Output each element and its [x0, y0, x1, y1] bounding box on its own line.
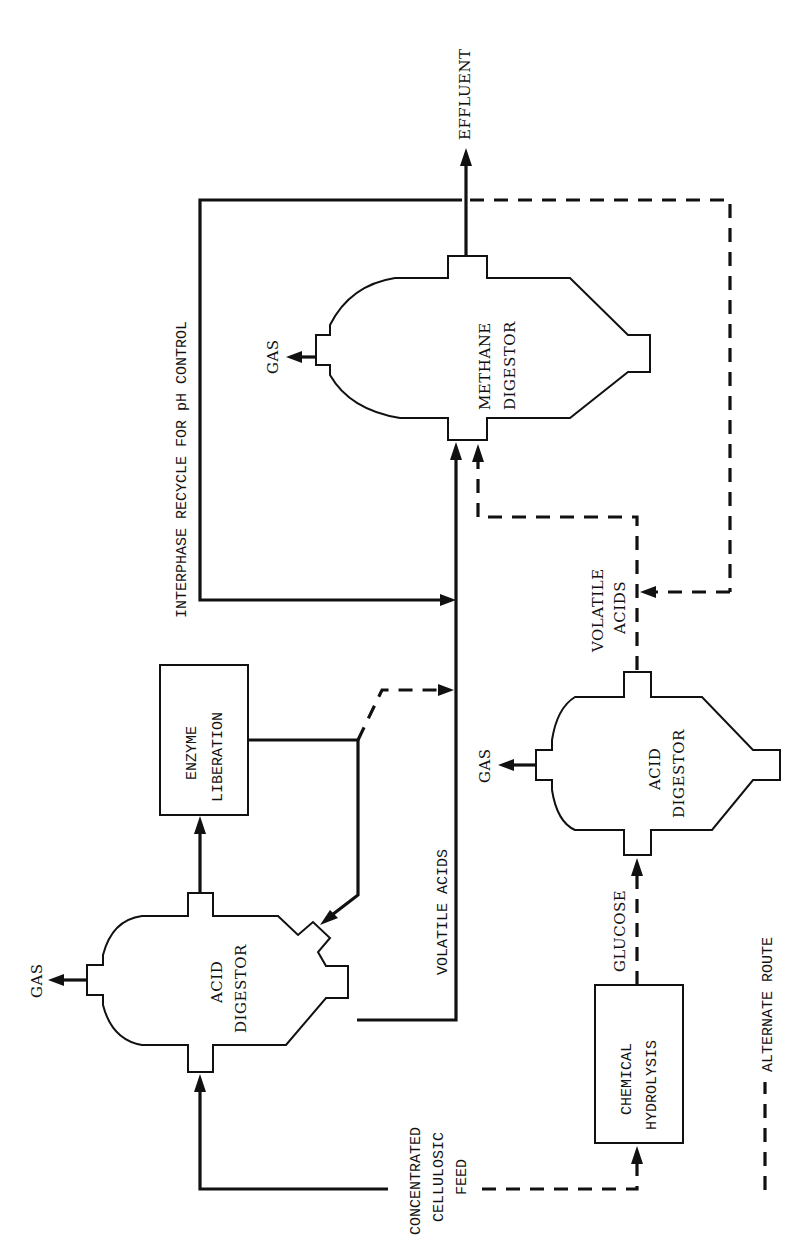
glucose-label: GLUCOSE	[611, 890, 629, 972]
recycle-label: INTERPHASE RECYCLE FOR pH CONTROL	[174, 321, 191, 618]
feed-label-3: FEED	[454, 1159, 471, 1195]
volatile-acids-alternate-line: VOLATILE ACIDS	[472, 444, 637, 670]
enzyme-liberation-label-1: ENZYME	[184, 726, 201, 780]
volatile-acids-main-line: VOLATILE ACIDS	[357, 442, 462, 1020]
chemical-hydrolysis-unit: CHEMICAL HYDROLYSIS	[595, 985, 683, 1143]
feed-line	[194, 1074, 388, 1189]
gas-label-methane: GAS	[264, 339, 282, 374]
acid-to-enzyme-arrow-icon	[194, 816, 206, 834]
enzyme-liberation-label-2: LIBERATION	[210, 712, 227, 802]
acid-digestor-primary-label-1: ACID	[208, 961, 226, 1004]
gas-outlet-primary: GAS	[28, 963, 87, 998]
methane-digestor-label-1: METHANE	[476, 322, 494, 410]
gas-label-primary: GAS	[28, 963, 46, 998]
recycle-line	[200, 200, 462, 606]
chemical-hydrolysis-label-1: CHEMICAL	[619, 1043, 636, 1115]
glucose-arrow-icon	[631, 858, 643, 876]
feed-alternate-line	[482, 1146, 643, 1189]
recycle-alt-arrowhead-icon	[640, 586, 656, 598]
enzyme-alt-arrow-icon	[438, 684, 454, 696]
enzyme-liberation-unit: ENZYME LIBERATION	[160, 665, 248, 815]
acid-to-enzyme-line	[194, 816, 206, 893]
feed-label-1: CONCENTRATED	[408, 1127, 425, 1235]
legend-label: ALTERNATE ROUTE	[760, 937, 777, 1072]
gas-outlet-methane: GAS	[264, 339, 316, 374]
effluent-arrow-icon	[460, 148, 472, 166]
effluent-outlet: EFFLUENT	[456, 48, 474, 256]
process-flow-diagram: METHANE DIGESTOR GAS EFFLUENT INTERPHASE…	[0, 0, 811, 1257]
volatile-acids-arrow-icon	[450, 442, 462, 460]
feed-label-2: CELLULOSIC	[431, 1132, 448, 1222]
volatile-acids-alt-arrow-icon	[472, 444, 484, 462]
acid-digestor-alternate: ACID DIGESTOR	[536, 672, 780, 855]
chemical-hydrolysis-label-2: HYDROLYSIS	[644, 1040, 661, 1130]
gas-label-alternate: GAS	[476, 748, 494, 783]
enzyme-alternate-line	[358, 684, 454, 740]
glucose-line: GLUCOSE	[611, 858, 643, 985]
acid-digestor-primary-label-2: DIGESTOR	[232, 944, 250, 1033]
methane-digestor-label-2: DIGESTOR	[501, 321, 519, 410]
methane-digestor: METHANE DIGESTOR	[316, 256, 650, 440]
recycle-arrowhead-icon	[440, 594, 456, 606]
gas-arrow-icon	[48, 974, 64, 986]
enzyme-return-line	[248, 740, 358, 925]
gas-outlet-alternate: GAS	[476, 748, 536, 783]
gas-arrow-icon	[286, 351, 302, 363]
volatile-acids-label: VOLATILE ACIDS	[435, 849, 452, 975]
legend: ALTERNATE ROUTE	[760, 937, 777, 1190]
volatile-acids-alt-label-2: ACIDS	[611, 581, 629, 635]
acid-digestor-primary: ACID DIGESTOR	[87, 893, 348, 1072]
feed-arrow-icon	[194, 1074, 206, 1092]
gas-arrow-icon	[498, 759, 514, 771]
volatile-acids-alt-label-1: VOLATILE	[589, 568, 607, 653]
effluent-label: EFFLUENT	[456, 48, 474, 140]
acid-digestor-alternate-label-1: ACID	[646, 748, 664, 791]
acid-digestor-alternate-label-2: DIGESTOR	[670, 729, 688, 818]
feed-alt-arrow-icon	[631, 1146, 643, 1164]
